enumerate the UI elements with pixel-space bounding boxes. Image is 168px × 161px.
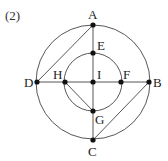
point-i [90,79,95,84]
point-e [90,50,95,55]
point-label-f: F [123,67,130,82]
point-label-d: D [24,75,33,90]
point-label-c: C [88,144,97,159]
problem-number-label: (2) [5,8,20,23]
point-a [90,22,95,27]
point-label-e: E [97,38,105,53]
point-label-a: A [88,7,98,22]
point-label-b: B [153,75,162,90]
point-label-i: I [97,67,101,82]
point-h [62,79,67,84]
point-d [34,79,39,84]
point-c [90,137,95,142]
segment-hg [65,82,93,111]
point-label-g: G [95,112,104,127]
point-b [146,79,151,84]
geometry-diagram: (2) ABCDEFGHI [0,0,168,161]
point-label-h: H [53,67,62,82]
